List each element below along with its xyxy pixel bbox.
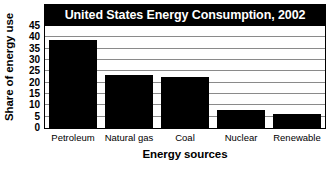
y-axis-tick-30: 30: [29, 55, 40, 65]
chart-title: United States Energy Consumption, 2002: [65, 8, 306, 22]
y-axis-title: Share of energy use: [0, 0, 18, 134]
bar-chart-figure: Share of energy use 051015202530354045 U…: [0, 0, 334, 170]
x-axis-tick-petroleum: Petroleum: [45, 131, 101, 144]
bars-layer: [45, 26, 325, 128]
plot-area: [44, 25, 326, 129]
y-axis-tick-15: 15: [29, 89, 40, 99]
x-axis-tick-renewable: Renewable: [269, 131, 325, 144]
y-axis-tick-10: 10: [29, 100, 40, 110]
bar-petroleum: [49, 40, 96, 128]
y-axis-tick-35: 35: [29, 44, 40, 54]
y-axis-tick-40: 40: [29, 32, 40, 42]
y-axis-tick-20: 20: [29, 78, 40, 88]
x-axis-title: Energy sources: [44, 148, 326, 160]
chart-title-banner: United States Energy Consumption, 2002: [44, 4, 326, 25]
y-axis-title-label: Share of energy use: [3, 13, 15, 121]
x-axis-tick-nuclear: Nuclear: [213, 131, 269, 144]
y-axis-tick-0: 0: [34, 123, 40, 133]
y-axis-tick-25: 25: [29, 66, 40, 76]
bar-renewable: [273, 114, 320, 128]
x-axis-tick-natural-gas: Natural gas: [101, 131, 157, 144]
bar-natural-gas: [105, 75, 152, 128]
bar-nuclear: [217, 110, 264, 128]
x-axis-tick-coal: Coal: [157, 131, 213, 144]
y-axis-tick-5: 5: [34, 112, 40, 122]
bar-coal: [161, 77, 208, 128]
y-axis-tick-labels: 051015202530354045: [18, 22, 42, 134]
y-axis-tick-45: 45: [29, 21, 40, 31]
x-axis-tick-labels: PetroleumNatural gasCoalNuclearRenewable: [44, 131, 326, 145]
